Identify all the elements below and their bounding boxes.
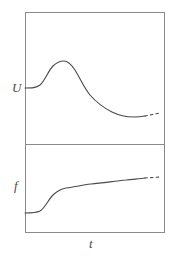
y-axis-label-upper: U bbox=[12, 81, 21, 94]
y-axis-label-lower: f bbox=[14, 179, 18, 192]
plot-canvas bbox=[0, 0, 176, 257]
figure-root: U f t bbox=[0, 0, 176, 257]
plot-frame bbox=[26, 13, 165, 233]
x-axis-label: t bbox=[89, 237, 93, 250]
